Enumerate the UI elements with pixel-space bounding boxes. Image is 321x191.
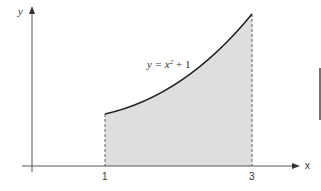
y-axis-arrow-icon — [29, 6, 35, 14]
x-axis-arrow-icon — [292, 163, 300, 169]
curve-label: y = x2 + 1 — [146, 58, 190, 70]
x-tick-1: 1 — [102, 171, 108, 182]
shaded-area — [105, 14, 252, 166]
x-axis-label: x — [305, 160, 310, 171]
x-tick-3-label: 3 — [249, 171, 255, 182]
y-axis-label: y — [17, 5, 23, 17]
svg-text:y = x2 + 1: y = x2 + 1 — [146, 58, 190, 70]
area-under-curve-diagram: y x 1 3 y = x2 + 1 — [0, 0, 321, 191]
